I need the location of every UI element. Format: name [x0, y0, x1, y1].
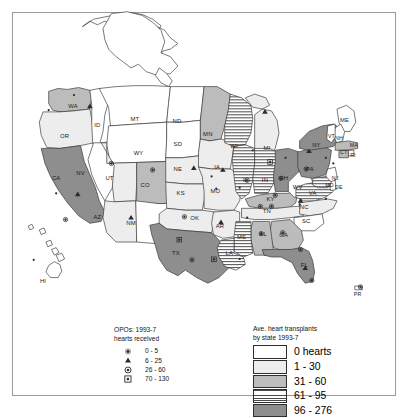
state-label-IL: IL	[243, 177, 249, 183]
state-label-SC: SC	[302, 218, 311, 224]
state-label-GA: GA	[279, 232, 288, 238]
choropleth-legend-rows: 0 hearts 1 - 30 31 - 60 61 - 95 96 - 276	[253, 345, 378, 418]
opo-legend-row[interactable]: 70 - 130	[123, 375, 169, 384]
choropleth-legend-row[interactable]: 31 - 60	[253, 374, 378, 389]
opo-dot	[239, 258, 241, 260]
choropleth-legend-row[interactable]: 96 - 276	[253, 403, 378, 418]
state-label-TN: TN	[263, 208, 271, 214]
state-ND[interactable]	[167, 87, 204, 123]
state-label-ND: ND	[173, 118, 182, 124]
state-label-MI: MI	[263, 145, 270, 151]
state-label-AL: AL	[259, 231, 267, 237]
opo-legend-title-line1: OPOs: 1993-7	[114, 325, 234, 334]
opo-legend-row[interactable]: 26 - 60	[123, 366, 169, 375]
opo-legend-items: 0 - 5 6 - 25	[123, 347, 169, 385]
state-label-WV: WV	[293, 184, 303, 190]
state-label-CA: CA	[52, 175, 61, 181]
state-SD[interactable]	[166, 120, 201, 157]
opo-dot	[210, 175, 212, 177]
state-label-WA: WA	[68, 103, 78, 109]
choropleth-legend-title-line2: by state 1993-7	[253, 333, 378, 342]
state-label-OH: OH	[279, 175, 288, 181]
state-label-PA: PA	[306, 166, 314, 172]
legend-class-label: 1 - 30	[287, 360, 321, 374]
state-label-IA: IA	[214, 164, 220, 170]
circled-dot-icon	[123, 366, 137, 375]
state-label-IN: IN	[262, 177, 268, 183]
state-label-UT: UT	[105, 175, 113, 181]
state-label-WY: WY	[134, 150, 144, 156]
triangle-icon	[123, 356, 137, 365]
state-label-OR: OR	[60, 133, 69, 139]
state-label-HI: HI	[40, 278, 46, 284]
choropleth-legend-row[interactable]: 0 hearts	[253, 345, 378, 360]
opo-dot	[33, 259, 35, 261]
state-label-AR: AR	[216, 223, 225, 229]
opo-dot	[325, 198, 327, 200]
legend-swatch-3	[253, 389, 287, 403]
state-IN[interactable]	[253, 148, 277, 193]
state-label-NV: NV	[76, 170, 85, 176]
legend-class-label: 96 - 276	[287, 404, 332, 418]
state-label-CO: CO	[141, 182, 150, 188]
state-label-MT: MT	[130, 116, 139, 122]
opo-dot	[332, 162, 334, 164]
opo-legend-label: 6 - 25	[137, 356, 169, 365]
state-label-MD: MD	[325, 182, 334, 188]
opo-legend-label: 26 - 60	[137, 366, 169, 375]
state-label-OK: OK	[190, 215, 199, 221]
state-IL[interactable]	[232, 145, 254, 199]
state-OR[interactable]	[39, 109, 93, 148]
boxed-dot-icon	[123, 375, 137, 384]
state-label-VT: VT	[328, 133, 336, 139]
state-label-NM: NM	[126, 220, 136, 226]
state-WY[interactable]	[107, 122, 167, 163]
opo-dot	[73, 94, 75, 96]
opo-legend-row[interactable]: 6 - 25	[123, 356, 169, 365]
state-label-ME: ME	[340, 117, 349, 123]
opo-dot	[48, 109, 50, 111]
legend-swatch-4	[253, 404, 287, 418]
state-label-MO: MO	[210, 188, 220, 194]
choropleth-legend: Ave. heart transplants by state 1993-7 0…	[253, 324, 378, 418]
opo-legend-label: 70 - 130	[137, 375, 169, 384]
opo-dot	[284, 157, 286, 159]
state-label-MS: MS	[237, 234, 246, 240]
state-label-VA: VA	[309, 190, 317, 196]
opo-dot	[246, 217, 248, 219]
state-label-AZ: AZ	[93, 214, 101, 220]
opo-legend-row[interactable]: 0 - 5	[123, 347, 169, 356]
choropleth-legend-title-line1: Ave. heart transplants	[253, 324, 378, 333]
opo-legend-label: 0 - 5	[137, 347, 169, 356]
opo-legend: OPOs: 1993-7 hearts received 0 - 5	[114, 325, 234, 384]
opo-dot	[325, 157, 327, 159]
legend-swatch-1	[253, 360, 287, 374]
opo-dot	[252, 149, 254, 151]
choropleth-legend-row[interactable]: 1 - 30	[253, 360, 378, 375]
opo-dot	[55, 192, 57, 194]
legend-swatch-0	[253, 345, 287, 359]
legend-class-label: 31 - 60	[287, 375, 326, 389]
state-label-NH: NH	[335, 135, 343, 141]
state-label-MA: MA	[350, 142, 359, 148]
legend-class-label: 0 hearts	[287, 345, 332, 359]
state-HI[interactable]	[28, 224, 65, 277]
state-label-NJ: NJ	[332, 175, 339, 181]
figure-frame: WAORIDMTNDSDMNWIMIWYCANVUTCONEIAILINOHPA…	[12, 12, 396, 396]
dot-icon	[123, 347, 137, 356]
opo-dot	[239, 187, 241, 189]
state-label-PR: PR	[354, 291, 362, 297]
choropleth-legend-row[interactable]: 61 - 95	[253, 389, 378, 404]
state-KS[interactable]	[166, 182, 206, 210]
state-label-NY: NY	[312, 142, 321, 148]
state-label-SD: SD	[174, 141, 183, 147]
state-label-CT: CT	[340, 149, 348, 155]
legend-swatch-2	[253, 375, 287, 389]
state-label-WI: WI	[230, 143, 238, 149]
state-label-NC: NC	[300, 204, 309, 210]
state-label-TX: TX	[172, 250, 180, 256]
state-label-KS: KS	[177, 190, 185, 196]
state-label-RI: RI	[350, 152, 356, 158]
state-label-KY: KY	[266, 196, 274, 202]
